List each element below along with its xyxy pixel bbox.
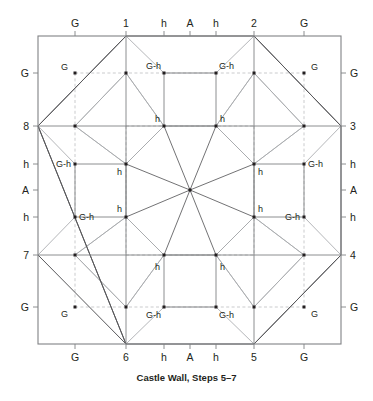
- axis-label-top-1: 1: [123, 17, 129, 29]
- axis-label-right-3: A: [350, 184, 357, 196]
- axis-label-left-2: h: [23, 158, 29, 170]
- node-dot: [163, 254, 166, 257]
- node-label-7: G-h: [219, 310, 234, 320]
- axis-label-right-5: 4: [350, 249, 356, 261]
- node-dots: [74, 72, 306, 309]
- axis-label-top-3: A: [186, 17, 193, 29]
- axis-label-left-4: h: [23, 211, 29, 223]
- node-label-10: G-h: [308, 159, 323, 169]
- node-dot: [163, 72, 166, 75]
- node-dot: [303, 125, 306, 128]
- node-dot: [215, 72, 218, 75]
- node-label-11: G-h: [285, 212, 300, 222]
- figure-title: Castle Wall, Steps 5–7: [137, 372, 237, 383]
- node-dot: [125, 216, 128, 219]
- node-dot: [253, 72, 256, 75]
- axis-label-left-1: 8: [23, 120, 29, 132]
- node-dot: [303, 72, 306, 75]
- castle-wall-diagram: G1hAh2GG6hAh5GG8hAh7GG3hAh4G GGGGG-hG-hG…: [0, 0, 373, 401]
- node-dot: [303, 254, 306, 257]
- node-label-2: G: [61, 309, 68, 319]
- node-dot: [303, 216, 306, 219]
- axis-label-bottom-5: 5: [251, 351, 257, 363]
- node-label-12: h: [155, 114, 160, 124]
- node-dot: [125, 72, 128, 75]
- axis-label-left-5: 7: [23, 249, 29, 261]
- node-dot: [125, 163, 128, 166]
- axis-label-bottom-4: h: [213, 351, 219, 363]
- node-label-6: G-h: [146, 310, 161, 320]
- node-dot: [74, 254, 77, 257]
- node-dot: [74, 125, 77, 128]
- axis-label-right-0: G: [350, 67, 358, 79]
- node-label-0: G: [61, 62, 68, 72]
- node-label-18: h: [258, 167, 263, 177]
- node-dot: [215, 125, 218, 128]
- node-dot: [74, 306, 77, 309]
- node-label-17: h: [117, 204, 122, 214]
- axis-label-bottom-6: G: [300, 351, 308, 363]
- axis-label-bottom-1: 6: [123, 351, 129, 363]
- node-dot: [125, 306, 128, 309]
- axis-label-left-3: A: [22, 184, 29, 196]
- node-dot: [163, 306, 166, 309]
- node-dot: [189, 189, 192, 192]
- axis-label-top-5: 2: [251, 17, 257, 29]
- node-label-3: G: [311, 309, 318, 319]
- axis-label-right-6: G: [350, 301, 358, 313]
- node-label-4: G-h: [146, 61, 161, 71]
- node-label-9: G-h: [79, 212, 94, 222]
- figure-container: G1hAh2GG6hAh5GG8hAh7GG3hAh4G GGGGG-hG-hG…: [0, 0, 373, 401]
- axis-label-top-0: G: [71, 17, 79, 29]
- axis-label-top-6: G: [300, 17, 308, 29]
- node-dot: [215, 254, 218, 257]
- axis-label-top-2: h: [161, 17, 167, 29]
- node-label-13: h: [220, 114, 225, 124]
- node-dot: [303, 306, 306, 309]
- node-dot: [303, 163, 306, 166]
- node-label-19: h: [258, 204, 263, 214]
- axis-label-bottom-0: G: [71, 351, 79, 363]
- axis-label-right-4: h: [350, 211, 356, 223]
- axis-label-bottom-3: A: [186, 351, 193, 363]
- node-label-5: G-h: [219, 61, 234, 71]
- node-dot: [253, 216, 256, 219]
- node-dot: [253, 163, 256, 166]
- node-dot: [74, 72, 77, 75]
- node-dot: [74, 216, 77, 219]
- node-label-1: G: [311, 62, 318, 72]
- node-dot: [215, 306, 218, 309]
- axis-label-left-6: G: [21, 301, 29, 313]
- node-label-14: h: [155, 262, 160, 272]
- node-label-15: h: [220, 262, 225, 272]
- axis-label-bottom-2: h: [161, 351, 167, 363]
- axis-label-left-0: G: [21, 67, 29, 79]
- axis-label-right-1: 3: [350, 120, 356, 132]
- node-label-16: h: [117, 167, 122, 177]
- node-label-8: G-h: [56, 159, 71, 169]
- axis-label-right-2: h: [350, 158, 356, 170]
- node-dot: [163, 125, 166, 128]
- node-dot: [74, 163, 77, 166]
- axis-label-top-4: h: [213, 17, 219, 29]
- node-dot: [253, 306, 256, 309]
